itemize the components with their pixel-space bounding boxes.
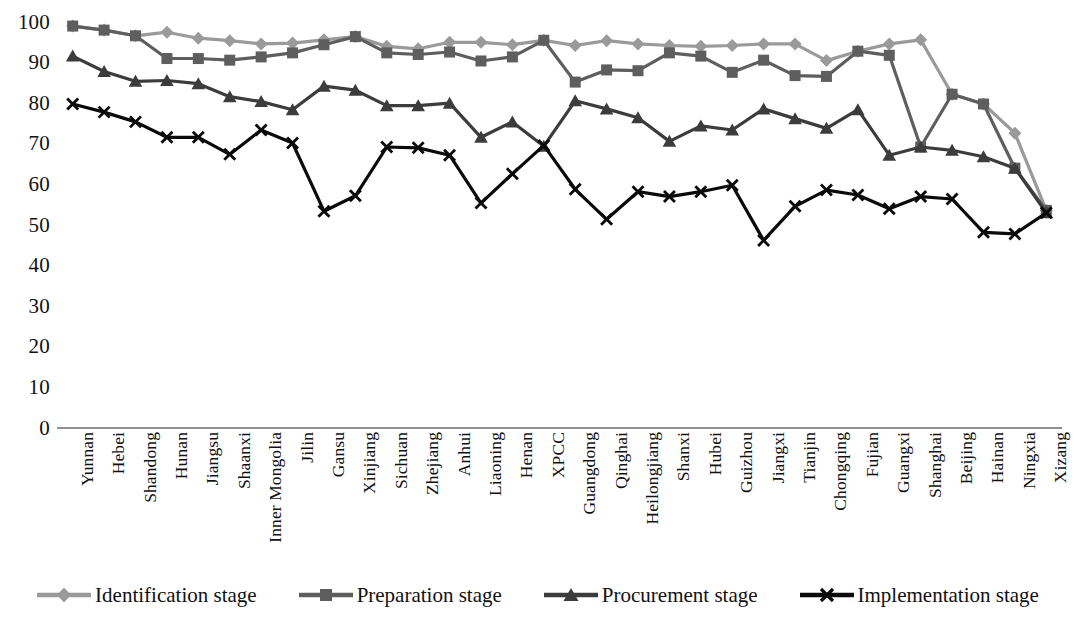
- x-axis-tick-label: Gansu: [330, 432, 348, 477]
- x-axis-tick-label: Liaoning: [487, 432, 505, 496]
- series-data-point: [413, 49, 424, 60]
- series-data-point: [725, 123, 739, 135]
- series-data-point: [1008, 162, 1022, 174]
- series-data-point: [757, 37, 770, 50]
- series-data-point: [507, 51, 518, 62]
- series-data-point: [380, 40, 393, 53]
- series-data-point: [350, 31, 361, 42]
- x-axis-tick-label: Hainan: [989, 432, 1007, 483]
- y-axis-tick-label: 60: [0, 174, 50, 195]
- x-axis-tick-label: Fujian: [864, 432, 882, 477]
- series-data-point: [789, 37, 802, 50]
- series-data-point: [223, 34, 236, 47]
- series-data-point: [851, 45, 864, 58]
- series-data-point: [852, 189, 863, 200]
- series-data-point: [632, 37, 645, 50]
- series-data-point: [381, 47, 392, 58]
- series-data-point: [601, 64, 612, 75]
- series-data-point: [444, 150, 455, 161]
- series-data-point: [884, 50, 895, 61]
- series-data-point: [98, 24, 111, 37]
- series-data-point: [757, 102, 771, 114]
- series-data-point: [67, 99, 78, 110]
- series-data-point: [160, 74, 174, 86]
- x-axis-tick-label: Hunan: [173, 432, 191, 479]
- y-axis-tick-label: 30: [0, 296, 50, 317]
- series-data-point: [1009, 163, 1020, 174]
- legend-label-preparation: Preparation stage: [357, 584, 502, 606]
- series-data-point: [443, 97, 457, 109]
- series-data-point: [569, 39, 582, 52]
- x-axis-tick-label: Xinjiang: [361, 432, 379, 494]
- x-axis-tick-label: Henan: [518, 432, 536, 478]
- series-data-point: [978, 227, 989, 238]
- legend-item-implementation[interactable]: Implementation stage: [798, 584, 1039, 606]
- series-data-point: [852, 46, 863, 57]
- series-data-point: [256, 124, 267, 135]
- series-data-point: [633, 65, 644, 76]
- series-data-point: [474, 131, 488, 143]
- series-data-point: [694, 119, 708, 131]
- legend-marker-diamond-icon: [35, 584, 93, 606]
- series-data-point: [695, 186, 706, 197]
- x-axis-tick-label: Beijing: [958, 432, 976, 484]
- series-data-point: [224, 149, 235, 160]
- series-data-point: [537, 34, 550, 47]
- series-data-point: [945, 144, 959, 156]
- series-data-point: [506, 115, 520, 127]
- series-data-point: [130, 30, 141, 41]
- series-data-point: [570, 184, 581, 195]
- series-data-point: [695, 51, 706, 62]
- series-data-point: [474, 36, 487, 49]
- series-layer: [66, 20, 1053, 246]
- series-data-point: [256, 51, 267, 62]
- series-data-point: [977, 98, 990, 111]
- chart-series: [66, 50, 1053, 219]
- series-data-point: [350, 190, 361, 201]
- series-data-point: [914, 141, 928, 153]
- x-axis-tick-label: Jiangxi: [770, 432, 788, 483]
- series-data-point: [663, 135, 677, 147]
- series-data-point: [790, 201, 801, 212]
- legend-item-preparation[interactable]: Preparation stage: [297, 584, 502, 606]
- series-data-point: [694, 40, 707, 53]
- series-data-point: [506, 38, 519, 51]
- series-data-point: [1039, 206, 1053, 218]
- legend-label-identification: Identification stage: [95, 584, 257, 606]
- x-axis-tick-label: Guizhou: [738, 432, 756, 493]
- series-data-point: [758, 235, 769, 246]
- chart-series: [67, 21, 1052, 216]
- legend-item-procurement[interactable]: Procurement stage: [542, 584, 758, 606]
- series-line: [73, 26, 1047, 210]
- series-data-point: [914, 33, 927, 46]
- x-axis-tick-label: Jilin: [299, 432, 317, 463]
- series-data-point: [538, 35, 549, 46]
- series-data-point: [915, 191, 926, 202]
- series-data-point: [224, 55, 235, 66]
- legend-marker-triangle-icon: [542, 584, 600, 606]
- y-axis-tick-label: 0: [0, 418, 50, 439]
- series-data-point: [601, 214, 612, 225]
- series-data-point: [129, 29, 142, 42]
- legend-item-identification[interactable]: Identification stage: [35, 584, 257, 606]
- series-data-point: [727, 67, 738, 78]
- x-axis-tick-label: Ningxia: [1021, 432, 1039, 489]
- x-axis-tick-label: Inner Mongolia: [267, 432, 285, 543]
- legend-label-implementation: Implementation stage: [858, 584, 1039, 606]
- series-data-point: [160, 26, 173, 39]
- chart-series: [67, 99, 1052, 246]
- series-data-point: [223, 90, 237, 102]
- series-data-point: [318, 206, 329, 217]
- y-axis-tick-label: 50: [0, 215, 50, 236]
- x-axis-tick-label: Sichuan: [393, 432, 411, 489]
- series-data-point: [66, 50, 80, 62]
- y-axis-tick-label: 70: [0, 133, 50, 154]
- series-data-point: [193, 53, 204, 64]
- x-axis-tick-label: Shandong: [142, 432, 160, 503]
- x-axis-tick-label: Hubei: [707, 432, 725, 475]
- series-data-point: [67, 21, 78, 32]
- x-axis-tick-label: Yunnan: [79, 432, 97, 486]
- series-data-point: [286, 103, 300, 115]
- x-axis-tick-label: Xizang: [1052, 432, 1070, 483]
- series-data-point: [130, 116, 141, 127]
